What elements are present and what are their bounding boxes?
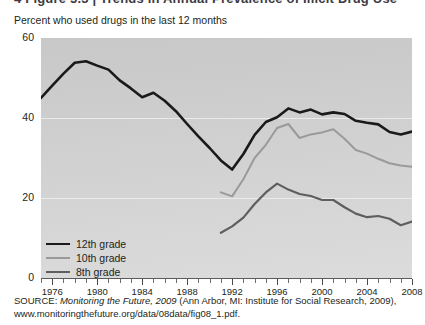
source-url: www.monitoringthefuture.org/data/08data/…	[14, 308, 240, 319]
x-tick-1996	[277, 279, 278, 285]
legend-label-2: 8th grade	[76, 266, 120, 278]
x-tick-1977	[63, 279, 64, 283]
series-line-12th-grade	[41, 61, 412, 169]
x-tick-1997	[288, 279, 289, 283]
legend-label-0: 12th grade	[76, 238, 126, 250]
x-tick-1995	[266, 279, 267, 283]
source-label: SOURCE:	[14, 295, 57, 306]
chart-legend: 12th grade10th grade8th grade	[46, 237, 126, 279]
cut-off-headline: 4 Figure 5.3 | Trends in Annual Prevalen…	[0, 0, 425, 9]
legend-item-8th-grade: 8th grade	[46, 265, 126, 279]
x-tick-1985	[153, 279, 154, 283]
y-tick-label-40: 40	[4, 111, 34, 123]
x-tick-1986	[165, 279, 166, 283]
x-tick-1993	[243, 279, 244, 283]
x-tick-1994	[255, 279, 256, 283]
chart-figure: 12th grade10th grade8th grade 0204060197…	[0, 30, 425, 292]
source-title: Monitoring the Future, 2009	[60, 295, 177, 306]
x-tick-1988	[187, 279, 188, 285]
legend-label-1: 10th grade	[76, 252, 126, 264]
source-rest: (Ann Arbor, MI: Institute for Social Res…	[177, 295, 397, 306]
x-tick-1984	[142, 279, 143, 285]
x-tick-1980	[97, 279, 98, 285]
legend-swatch-0	[46, 243, 70, 245]
x-tick-1987	[176, 279, 177, 283]
x-tick-2006	[390, 279, 391, 283]
series-line-10th-grade	[221, 124, 412, 196]
x-tick-1979	[86, 279, 87, 283]
x-tick-2008	[412, 279, 413, 285]
source-note: SOURCE: Monitoring the Future, 2009 (Ann…	[14, 295, 419, 320]
x-tick-1975	[41, 279, 42, 283]
x-tick-1989	[198, 279, 199, 283]
x-tick-1998	[300, 279, 301, 283]
x-tick-1999	[311, 279, 312, 283]
x-tick-1990	[210, 279, 211, 283]
legend-swatch-1	[46, 257, 70, 259]
chart-subtitle: Percent who used drugs in the last 12 mo…	[14, 14, 227, 26]
x-tick-2000	[322, 279, 323, 285]
series-line-8th-grade	[221, 184, 412, 233]
y-tick-label-20: 20	[4, 191, 34, 203]
x-tick-2003	[356, 279, 357, 283]
x-tick-1981	[108, 279, 109, 283]
x-tick-1983	[131, 279, 132, 283]
x-tick-2004	[367, 279, 368, 285]
y-tick-label-0: 0	[4, 271, 34, 283]
x-tick-2002	[345, 279, 346, 283]
x-tick-2005	[378, 279, 379, 283]
y-tick-label-60: 60	[4, 31, 34, 43]
x-tick-1978	[75, 279, 76, 283]
legend-item-10th-grade: 10th grade	[46, 251, 126, 265]
x-tick-1991	[221, 279, 222, 283]
x-tick-2007	[401, 279, 402, 283]
legend-item-12th-grade: 12th grade	[46, 237, 126, 251]
x-tick-1976	[52, 279, 53, 285]
x-tick-1982	[120, 279, 121, 283]
legend-swatch-2	[46, 271, 70, 273]
cut-off-headline-text: 4 Figure 5.3 | Trends in Annual Prevalen…	[14, 0, 397, 6]
x-tick-1992	[232, 279, 233, 285]
x-tick-2001	[333, 279, 334, 283]
